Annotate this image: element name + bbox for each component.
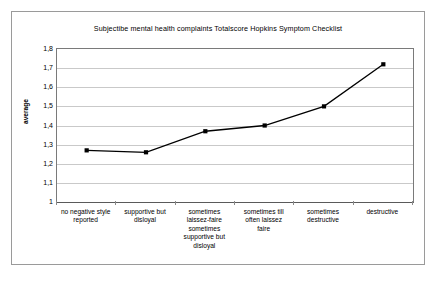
y-tick-label: 1,2 (43, 159, 53, 166)
x-axis-label-line: no negative style (57, 208, 114, 216)
x-axis-label-line: sometimes (176, 208, 233, 216)
data-point (85, 148, 89, 152)
y-axis-tick-labels: 1,8 1,7 1,6 1,5 1,4 1,3 1,2 1,1 1 (26, 48, 53, 201)
x-tick (234, 201, 235, 205)
x-axis-label-line: sometimes (294, 208, 351, 216)
x-tick (353, 201, 354, 205)
y-tick-label: 1,6 (43, 83, 53, 90)
x-axis-label-line: destructive (294, 216, 351, 224)
data-point (263, 123, 267, 127)
chart-title: Subjectibe mental health complaints Tota… (12, 24, 424, 33)
y-tick-label: 1,1 (43, 178, 53, 185)
data-point (381, 62, 385, 66)
data-point (144, 150, 148, 154)
x-tick (412, 201, 413, 205)
data-point (322, 104, 326, 108)
x-axis-label-line: reported (57, 216, 114, 224)
x-axis-label-line: supportive but (116, 208, 173, 216)
y-tick-label: 1,8 (43, 45, 53, 52)
x-axis-label: destructive (354, 208, 411, 216)
chart-container: Subjectibe mental health complaints Tota… (11, 11, 425, 265)
x-axis-ticks (56, 201, 414, 206)
x-axis-label: sometimes tilloften laissezfaire (235, 208, 292, 233)
data-series-average (57, 49, 413, 202)
x-axis-label-line: sometimes till (235, 208, 292, 216)
x-tick (115, 201, 116, 205)
x-axis-label-line: disloyal (176, 242, 233, 250)
data-point (203, 129, 207, 133)
x-axis-label-line: supportive but (176, 233, 233, 241)
y-tick-label: 1 (49, 198, 53, 205)
x-axis-labels: no negative stylereportedsupportive butd… (56, 208, 414, 266)
x-axis-label: supportive butdisloyal (116, 208, 173, 225)
x-axis-label-line: laissez-faire (176, 216, 233, 224)
x-axis-label: no negative stylereported (57, 208, 114, 225)
x-axis-label-line: often laissez (235, 216, 292, 224)
x-axis-label: sometimesdestructive (294, 208, 351, 225)
x-tick (56, 201, 57, 205)
plot-area (56, 48, 414, 203)
x-axis-label-line: faire (235, 225, 292, 233)
y-tick-label: 1,4 (43, 121, 53, 128)
x-tick (175, 201, 176, 205)
y-tick-label: 1,5 (43, 102, 53, 109)
x-axis-label-line: sometimes (176, 225, 233, 233)
y-tick-label: 1,3 (43, 140, 53, 147)
x-axis-label-line: disloyal (116, 216, 173, 224)
x-tick (293, 201, 294, 205)
x-axis-label-line: destructive (354, 208, 411, 216)
x-axis-label: sometimeslaissez-fairesometimessupportiv… (176, 208, 233, 250)
y-tick-label: 1,7 (43, 64, 53, 71)
